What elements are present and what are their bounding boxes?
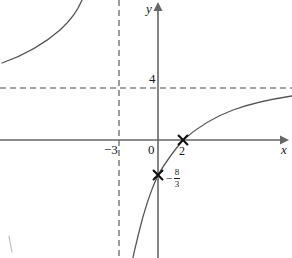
stray-mark: [9, 236, 12, 252]
y-intercept-minus-sign: −: [166, 172, 173, 184]
fraction-denominator: 3: [174, 179, 181, 189]
y-intercept-fraction: 8 3: [174, 168, 181, 189]
graph-canvas: [0, 0, 292, 258]
y-axis-label: y: [146, 2, 152, 15]
curve-right-branch-upper: [183, 96, 292, 140]
fraction-numerator: 8: [174, 168, 181, 178]
function-graph-figure: y x 4 0 2 −3 − 8 3: [0, 0, 292, 258]
origin-label: 0: [148, 143, 155, 156]
vertical-asymptote-label: −3: [104, 143, 118, 156]
y-axis-arrowhead: [154, 2, 163, 11]
horizontal-asymptote-label: 4: [149, 72, 156, 85]
x-axis-label: x: [281, 143, 287, 156]
curve-left-branch: [2, 0, 82, 63]
y-intercept-label: − 8 3: [166, 168, 180, 189]
x-intercept-label: 2: [179, 145, 185, 157]
